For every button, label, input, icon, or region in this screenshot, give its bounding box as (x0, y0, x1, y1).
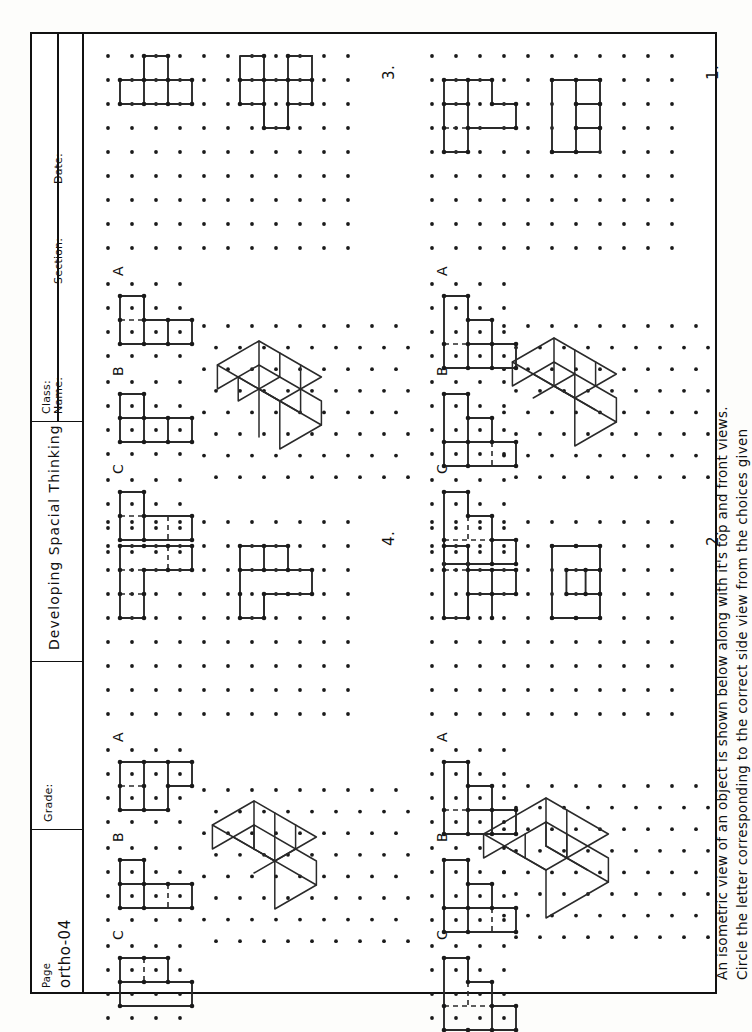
p2-topview-vertices (118, 544, 195, 621)
date-label: Date: (52, 153, 65, 184)
grid-problem-2-iso (202, 788, 410, 943)
p2-frontview-outline (240, 546, 312, 618)
series-title-cell: Developing Spacial Thinking (32, 422, 84, 662)
p2-frontview-vertices (238, 544, 315, 621)
grid-problem-3-iso (502, 324, 710, 479)
name-label: Name: (52, 377, 65, 414)
p1-frontview-outline (240, 56, 312, 128)
grid-problem-1-views (106, 54, 350, 250)
page-label: Page (41, 963, 52, 988)
p2-topview-outline (120, 546, 192, 618)
grade-label: Grade: (42, 784, 55, 822)
p3-isometric-drawing (512, 338, 616, 446)
p4-topview-vertices (442, 544, 519, 621)
p3-topview-outline (444, 80, 516, 152)
p4-frontview-outline (552, 546, 600, 618)
class-label: Class: (40, 380, 53, 414)
p4-isometric-drawing (484, 798, 609, 918)
p1-isometric-drawing (217, 341, 321, 449)
page-cell: Page ortho-04 (32, 830, 84, 996)
p1-frontview-vertices (238, 54, 315, 131)
p4-topview-outline (444, 546, 516, 618)
page-value: ortho-04 (56, 919, 74, 988)
p4-frontview-vertices (550, 544, 603, 621)
series-title: Developing Spacial Thinking (46, 424, 62, 650)
title-block: Name: Class: Section: Date: Developing S… (32, 34, 84, 992)
section-label: Section: (52, 238, 65, 284)
worksheet-sheet: Name: Class: Section: Date: Developing S… (30, 32, 717, 994)
title-block-identity-cell: Name: Class: Section: Date: (32, 34, 84, 422)
grid-problem-1-iso (202, 324, 410, 479)
grade-cell[interactable]: Grade: (32, 662, 84, 830)
p3-topview-vertices (442, 78, 519, 155)
instruction-line-2: Circle the letter corresponding to the c… (732, 406, 752, 980)
p2-isometric-drawing (212, 801, 316, 909)
p1-topview-edge-c (168, 80, 192, 104)
drawing-canvas (84, 34, 719, 996)
worksheet-body: An isometric view of an object is shown … (84, 34, 715, 992)
grid-problem-4-iso (502, 784, 710, 939)
